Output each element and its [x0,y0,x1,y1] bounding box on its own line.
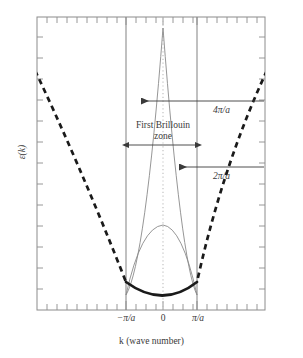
first-brillouin-zone-label: First Brillouin zone [119,120,207,141]
x-axis-title: k (wave number) [0,336,303,346]
x-tick-label-pi-over-a: π/a [180,313,216,323]
band-structure-plot [0,0,303,358]
label-2pi-over-a: 2π/a [213,171,230,181]
zone-label-line-1: First Brillouin [136,120,190,130]
figure-container: ε(k) −π/a 0 π/a k (wave number) 4π/a 2π/… [0,0,303,358]
label-4pi-over-a: 4π/a [213,105,230,115]
y-axis-title: ε(k) [17,132,27,172]
zone-label-line-2: zone [119,131,207,142]
x-tick-label-minus-pi-over-a: −π/a [106,313,146,323]
x-tick-label-zero: 0 [148,313,178,323]
